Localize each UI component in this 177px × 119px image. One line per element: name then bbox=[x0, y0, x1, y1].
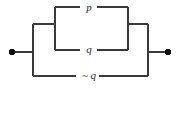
switching-circuit-diagram: p q ~ q bbox=[0, 0, 177, 119]
branch-label-p: p bbox=[78, 2, 100, 13]
right-terminal-dot bbox=[165, 49, 171, 55]
branch-label-q: q bbox=[78, 44, 100, 55]
circuit-wiring bbox=[0, 0, 177, 119]
branch-label-not-q: ~ q bbox=[72, 70, 106, 81]
left-terminal-dot bbox=[9, 49, 15, 55]
